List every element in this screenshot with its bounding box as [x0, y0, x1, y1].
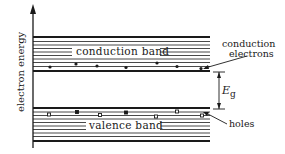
- holes-label: holes: [229, 118, 254, 129]
- electron-dot: [74, 62, 77, 65]
- electron-dot: [199, 67, 202, 70]
- arrow-up-icon: [217, 72, 221, 78]
- holes: [48, 110, 204, 118]
- hole-marker: [48, 113, 51, 116]
- electron-dot: [48, 65, 51, 68]
- band-gap-label: Eg: [221, 84, 236, 99]
- hole-marker: [176, 110, 179, 113]
- axis-label: electron energy: [15, 31, 26, 112]
- electron-dot: [155, 61, 158, 64]
- hole-marker: [125, 111, 128, 114]
- hole-marker: [76, 111, 79, 114]
- valence-band-label: valence band: [88, 119, 163, 131]
- electron-dot: [124, 66, 127, 69]
- electron-dot: [175, 65, 178, 68]
- conduction-electrons-label-2: electrons: [229, 48, 274, 59]
- hole-marker: [201, 114, 204, 117]
- conduction-band-label: conduction band: [76, 45, 169, 57]
- pointer-arrow-icon: [203, 65, 209, 69]
- electron-dot: [95, 64, 98, 67]
- band-gap-diagram: electron energy conduction band: [0, 0, 285, 154]
- arrow-up-icon: [30, 4, 36, 14]
- hole-marker: [99, 114, 102, 117]
- hole-marker: [155, 115, 158, 118]
- arrow-down-icon: [217, 103, 221, 109]
